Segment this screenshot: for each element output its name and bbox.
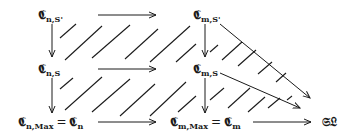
arrow-msprime-to-sl [220, 24, 310, 98]
node-sub: n,S [46, 68, 60, 78]
equals-sign: = [211, 115, 221, 129]
node-base: 𝕮 [18, 115, 26, 129]
node-sub: n,Max [26, 121, 53, 131]
node-rhs-base: 𝕮 [224, 115, 232, 129]
node-sl: 𝔖𝔏 [322, 115, 337, 129]
node-sub: n,S' [46, 14, 63, 24]
node-c-n-max: 𝕮n,Max=𝕮n [18, 115, 83, 133]
equals-sign: = [56, 115, 66, 129]
arrow-ms-to-sl [220, 73, 300, 108]
node-rhs-sub: n [77, 121, 83, 131]
node-sub: m,Max [178, 121, 208, 131]
node-c-m-s: 𝕮m,S [193, 62, 218, 80]
node-c-m-sprime: 𝕮m,S' [193, 8, 220, 26]
node-base: 𝕮 [170, 115, 178, 129]
node-rhs-sub: m [232, 121, 240, 131]
hatching [60, 24, 292, 116]
node-base: 𝕮 [193, 8, 201, 22]
node-base: 𝕮 [38, 8, 46, 22]
node-base: 𝕮 [38, 62, 46, 76]
node-sl-label: 𝔖𝔏 [322, 115, 337, 129]
node-c-n-sprime: 𝕮n,S' [38, 8, 63, 26]
node-c-n-s: 𝕮n,S [38, 62, 60, 80]
node-sub: m,S [201, 68, 218, 78]
node-base: 𝕮 [193, 62, 201, 76]
node-c-m-max: 𝕮m,Max=𝕮m [170, 115, 241, 133]
node-sub: m,S' [201, 14, 220, 24]
